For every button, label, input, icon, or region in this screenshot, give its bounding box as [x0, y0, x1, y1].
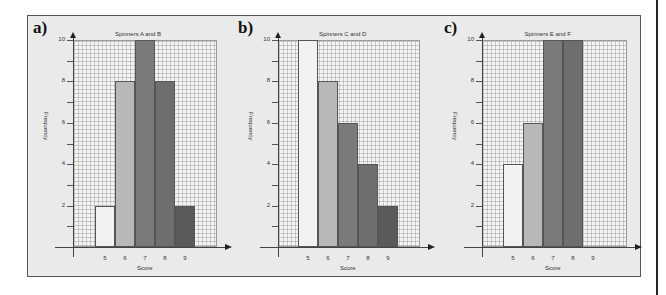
- y-tick: [67, 102, 73, 103]
- y-tick: [476, 40, 482, 41]
- y-axis: [73, 36, 74, 257]
- y-tick: [476, 164, 482, 165]
- y-tick: [67, 164, 73, 165]
- y-tick-label: 6: [258, 119, 270, 125]
- x-tick-label: 8: [155, 255, 175, 261]
- x-axis-title: Score: [340, 265, 356, 271]
- y-axis-arrow-icon: [70, 32, 76, 38]
- y-axis-arrow-icon: [275, 32, 281, 38]
- x-axis-arrow-icon: [225, 244, 232, 250]
- x-tick-label: 9: [583, 255, 603, 261]
- x-tick-label: 8: [563, 255, 583, 261]
- bar-score-9: [378, 206, 398, 247]
- bar-score-8: [563, 40, 583, 247]
- panel-label: b): [238, 18, 253, 38]
- x-tick-label: 5: [298, 255, 318, 261]
- y-tick: [67, 144, 73, 145]
- x-tick-label: 8: [358, 255, 378, 261]
- y-axis: [482, 36, 483, 257]
- bar-score-7: [135, 40, 155, 247]
- y-tick: [476, 81, 482, 82]
- panel-label: c): [444, 18, 457, 38]
- x-tick-label: 7: [338, 255, 358, 261]
- y-tick-label: 2: [258, 202, 270, 208]
- y-tick: [476, 144, 482, 145]
- y-tick: [67, 206, 73, 207]
- y-tick: [272, 206, 278, 207]
- y-tick: [67, 123, 73, 124]
- x-tick-label: 7: [135, 255, 155, 261]
- page-margin-rule: [656, 0, 658, 295]
- chart-title: Spinners C and D: [319, 31, 366, 37]
- y-tick: [272, 61, 278, 62]
- y-tick-label: 4: [53, 160, 65, 166]
- x-tick-label: 5: [503, 255, 523, 261]
- y-tick: [272, 164, 278, 165]
- y-tick: [67, 61, 73, 62]
- bar-score-7: [543, 40, 563, 247]
- x-axis: [464, 247, 637, 248]
- x-axis: [55, 247, 227, 248]
- y-tick-label: 10: [258, 36, 270, 42]
- x-tick-label: 6: [115, 255, 135, 261]
- bar-score-6: [523, 123, 543, 247]
- x-tick-label: 9: [378, 255, 398, 261]
- y-tick: [67, 185, 73, 186]
- y-tick: [476, 102, 482, 103]
- bar-score-6: [318, 81, 338, 247]
- y-axis-title: Frequency: [248, 112, 254, 140]
- y-axis-title: Frequency: [43, 112, 49, 140]
- chart-title: Spinners E and F: [525, 31, 571, 37]
- bar-score-8: [155, 81, 175, 247]
- x-axis-title: Score: [137, 265, 153, 271]
- x-axis-arrow-icon: [428, 244, 435, 250]
- y-tick-label: 2: [53, 202, 65, 208]
- bar-score-7: [338, 123, 358, 247]
- bar-score-5: [298, 40, 318, 247]
- y-tick: [272, 185, 278, 186]
- y-tick: [272, 102, 278, 103]
- y-tick-label: 6: [462, 119, 474, 125]
- y-tick: [67, 40, 73, 41]
- y-tick: [272, 144, 278, 145]
- x-tick-label: 7: [543, 255, 563, 261]
- bar-score-6: [115, 81, 135, 247]
- y-tick-label: 10: [462, 36, 474, 42]
- y-tick-label: 2: [462, 202, 474, 208]
- bar-score-9: [175, 206, 195, 247]
- x-tick-label: 6: [523, 255, 543, 261]
- y-axis-title: Frequency: [452, 112, 458, 140]
- chart-title: Spinners A and B: [115, 31, 161, 37]
- y-tick: [476, 206, 482, 207]
- x-axis: [260, 247, 430, 248]
- y-tick: [272, 40, 278, 41]
- y-tick-label: 10: [53, 36, 65, 42]
- y-tick: [476, 123, 482, 124]
- bar-score-5: [95, 206, 115, 247]
- y-tick-label: 4: [258, 160, 270, 166]
- y-tick: [67, 226, 73, 227]
- y-axis: [278, 36, 279, 257]
- y-tick-label: 8: [462, 77, 474, 83]
- x-tick-label: 5: [95, 255, 115, 261]
- bar-score-5: [503, 164, 523, 247]
- y-tick: [272, 123, 278, 124]
- y-tick-label: 8: [258, 77, 270, 83]
- y-tick: [272, 226, 278, 227]
- y-tick-label: 8: [53, 77, 65, 83]
- x-axis-title: Score: [545, 265, 561, 271]
- panel-label: a): [33, 18, 47, 38]
- x-tick-label: 6: [318, 255, 338, 261]
- bar-score-8: [358, 164, 378, 247]
- y-axis-arrow-icon: [479, 32, 485, 38]
- x-axis-arrow-icon: [635, 244, 642, 250]
- y-tick: [272, 81, 278, 82]
- x-tick-label: 9: [175, 255, 195, 261]
- y-tick: [476, 226, 482, 227]
- y-tick-label: 6: [53, 119, 65, 125]
- y-tick-label: 4: [462, 160, 474, 166]
- y-tick: [476, 61, 482, 62]
- y-tick: [67, 81, 73, 82]
- y-tick: [476, 185, 482, 186]
